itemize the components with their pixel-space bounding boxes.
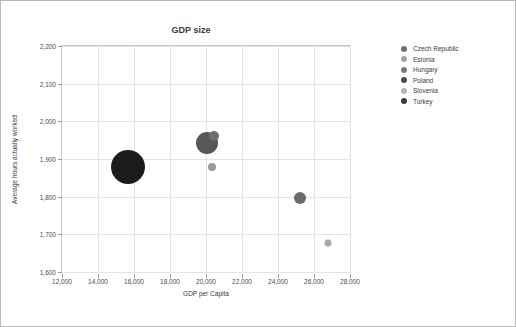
y-gridline: [62, 234, 350, 235]
plot-area: 12,00014,00016,00018,00020,00022,00024,0…: [61, 45, 351, 273]
legend-item-estonia[interactable]: Estonia: [401, 56, 511, 63]
x-tick-label: 20,000: [196, 278, 216, 285]
legend-marker-icon: [401, 77, 407, 83]
legend-item-hungary[interactable]: Hungary: [401, 66, 511, 73]
y-tick-label: 1,700: [40, 231, 56, 238]
legend-item-poland[interactable]: Poland: [401, 77, 511, 84]
x-gridline: [350, 46, 351, 272]
x-tick-label: 22,000: [232, 278, 252, 285]
y-tick-label: 1,600: [40, 269, 56, 276]
data-point-turkey[interactable]: [294, 192, 306, 204]
legend: Czech RepublicEstoniaHungaryPolandSloven…: [401, 45, 511, 108]
legend-item-turkey[interactable]: Turkey: [401, 98, 511, 105]
chart-title: GDP size: [1, 25, 381, 35]
y-gridline: [62, 197, 350, 198]
y-tick-mark: [58, 121, 62, 122]
y-gridline: [62, 121, 350, 122]
data-point-hungary[interactable]: [209, 131, 219, 141]
legend-item-label: Turkey: [413, 98, 433, 105]
legend-item-czech-republic[interactable]: Czech Republic: [401, 45, 511, 52]
y-gridline: [62, 84, 350, 85]
data-point-estonia[interactable]: [208, 163, 216, 171]
legend-item-label: Hungary: [413, 66, 438, 73]
y-tick-mark: [58, 46, 62, 47]
legend-item-label: Slovenia: [413, 87, 438, 94]
x-tick-label: 18,000: [160, 278, 180, 285]
legend-item-label: Poland: [413, 77, 433, 84]
y-tick-mark: [58, 234, 62, 235]
y-tick-label: 1,900: [40, 156, 56, 163]
x-tick-label: 24,000: [268, 278, 288, 285]
legend-marker-icon: [401, 46, 407, 52]
y-tick-label: 2,000: [40, 118, 56, 125]
legend-marker-icon: [401, 67, 407, 73]
y-tick-label: 1,800: [40, 193, 56, 200]
x-axis-label: GDP per Capita: [61, 290, 351, 297]
y-gridline: [62, 272, 350, 273]
data-point-slovenia[interactable]: [325, 240, 332, 247]
legend-marker-icon: [401, 56, 407, 62]
x-tick-label: 28,000: [340, 278, 360, 285]
y-tick-mark: [58, 272, 62, 273]
legend-marker-icon: [401, 88, 407, 94]
y-tick-mark: [58, 84, 62, 85]
y-tick-label: 2,200: [40, 43, 56, 50]
legend-item-label: Czech Republic: [413, 45, 459, 52]
legend-marker-icon: [401, 98, 407, 104]
chart-container: GDP size 12,00014,00016,00018,00020,0002…: [0, 0, 516, 327]
y-tick-label: 2,100: [40, 80, 56, 87]
x-tick-label: 14,000: [88, 278, 108, 285]
legend-item-slovenia[interactable]: Slovenia: [401, 87, 511, 94]
y-tick-mark: [58, 197, 62, 198]
x-tick-label: 26,000: [304, 278, 324, 285]
data-point-poland[interactable]: [111, 150, 145, 184]
x-tick-label: 16,000: [124, 278, 144, 285]
x-tick-label: 12,000: [52, 278, 72, 285]
y-tick-mark: [58, 159, 62, 160]
y-gridline: [62, 159, 350, 160]
y-axis-label: Average hours actually worked: [9, 45, 19, 273]
y-axis-label-text: Average hours actually worked: [11, 115, 18, 204]
y-gridline: [62, 46, 350, 47]
legend-item-label: Estonia: [413, 56, 435, 63]
